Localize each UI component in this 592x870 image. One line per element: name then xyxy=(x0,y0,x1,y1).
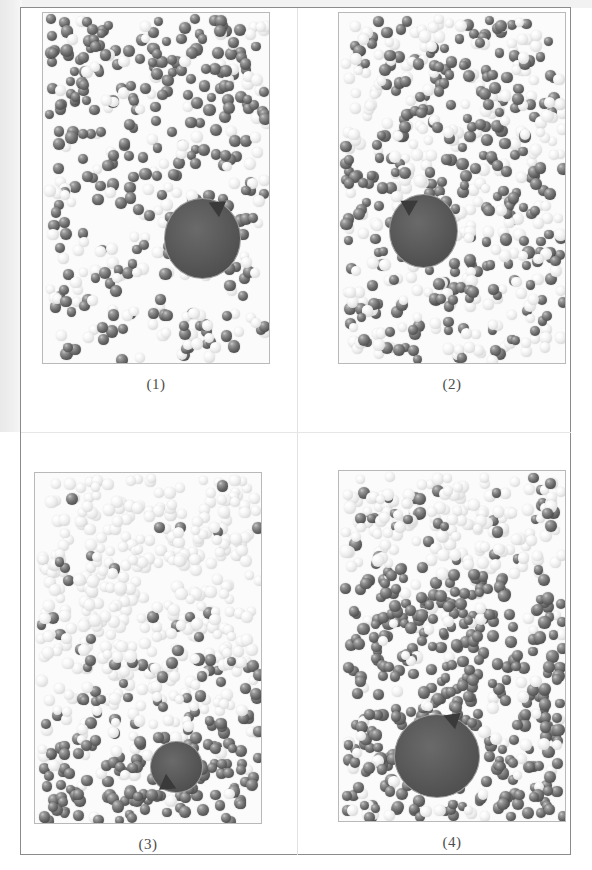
particle xyxy=(540,530,552,542)
particle xyxy=(426,150,437,161)
particle xyxy=(126,476,136,486)
particle xyxy=(60,296,71,307)
particle xyxy=(405,622,416,633)
particle xyxy=(555,332,566,344)
particle xyxy=(76,483,86,493)
particle xyxy=(467,286,479,298)
particle xyxy=(542,592,554,604)
particle xyxy=(41,719,51,729)
particle xyxy=(48,802,58,812)
particle xyxy=(554,229,565,242)
particle xyxy=(195,118,205,128)
particle xyxy=(457,353,467,363)
particle xyxy=(135,353,145,363)
particle-scene xyxy=(339,471,565,821)
particle xyxy=(544,771,556,783)
particle xyxy=(51,207,62,218)
particle xyxy=(370,90,379,99)
particle xyxy=(553,74,565,86)
particle xyxy=(363,762,375,774)
particle xyxy=(529,792,539,802)
particle xyxy=(153,732,164,743)
snapshot-image-2 xyxy=(338,12,566,364)
particle xyxy=(55,85,66,96)
particle xyxy=(439,628,448,637)
particle xyxy=(456,158,468,170)
particle xyxy=(81,775,93,787)
panel-caption-3: (3) xyxy=(34,836,262,853)
particle xyxy=(532,551,543,562)
particle xyxy=(167,500,177,510)
particle xyxy=(183,721,193,731)
particle xyxy=(424,624,435,635)
particle xyxy=(132,268,142,278)
particle xyxy=(493,544,505,556)
particle xyxy=(351,266,362,277)
particle xyxy=(65,131,77,143)
particle xyxy=(55,243,65,253)
particle xyxy=(354,66,363,75)
particle xyxy=(436,530,448,542)
particle xyxy=(468,569,479,580)
particle xyxy=(190,158,201,169)
particle xyxy=(555,699,565,709)
particle xyxy=(530,326,540,336)
particle xyxy=(66,493,78,505)
particle xyxy=(505,636,517,648)
particle xyxy=(511,336,521,346)
particle xyxy=(434,31,446,43)
particle xyxy=(191,680,201,690)
particle xyxy=(437,549,449,561)
particle xyxy=(56,594,65,603)
particle xyxy=(500,116,510,126)
particle xyxy=(151,116,161,126)
particle xyxy=(379,512,390,523)
particle xyxy=(358,334,370,346)
snapshot-panel-1: (1) xyxy=(42,12,270,406)
particle xyxy=(504,217,515,228)
particle xyxy=(230,497,240,507)
particle xyxy=(96,695,106,705)
particle xyxy=(133,792,143,802)
particle xyxy=(46,14,56,24)
particle xyxy=(93,194,105,206)
snapshot-panel-3: (3) xyxy=(34,472,262,866)
particle xyxy=(418,124,428,134)
particle xyxy=(253,195,265,207)
particle xyxy=(140,623,151,634)
particle xyxy=(534,761,545,772)
particle xyxy=(82,501,93,512)
particle xyxy=(344,73,356,85)
particle xyxy=(340,583,351,594)
particle xyxy=(512,720,523,731)
particle xyxy=(188,308,200,320)
particle xyxy=(198,144,210,156)
particle xyxy=(539,683,551,695)
particle xyxy=(389,275,399,285)
particle xyxy=(111,718,120,727)
panel-caption-4: (4) xyxy=(338,834,566,851)
particle xyxy=(446,56,457,67)
particle xyxy=(144,511,155,522)
particle xyxy=(434,15,444,25)
particle xyxy=(245,29,256,40)
particle xyxy=(168,604,180,616)
particle xyxy=(526,280,536,290)
particle xyxy=(508,192,520,204)
particle xyxy=(73,574,85,586)
particle xyxy=(377,182,389,194)
particle xyxy=(492,658,504,670)
particle xyxy=(518,552,530,564)
particle xyxy=(210,124,222,136)
particle xyxy=(217,759,227,769)
particle xyxy=(379,64,391,76)
particle xyxy=(39,811,51,823)
particle xyxy=(93,165,102,174)
particle xyxy=(229,178,240,189)
particle xyxy=(111,746,122,757)
particle xyxy=(356,475,366,485)
particle xyxy=(132,502,144,514)
particle xyxy=(434,805,446,817)
particle xyxy=(82,96,91,105)
particle xyxy=(381,27,392,38)
